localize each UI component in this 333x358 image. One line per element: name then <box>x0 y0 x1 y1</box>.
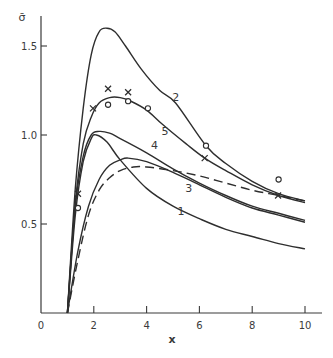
circle-marker-icon <box>203 143 208 148</box>
curves <box>67 28 305 313</box>
curve-label-5: 5 <box>162 125 169 138</box>
cross-marker-icon <box>105 86 111 92</box>
y-axis-title: σ̄ <box>19 11 26 24</box>
sigma-vs-x-chart: 0246810 0.51.01.5 x σ̄ 12345 <box>0 0 333 358</box>
x-tick-label: 6 <box>196 320 202 331</box>
curve-5 <box>67 97 305 313</box>
x-tick-label: 10 <box>299 320 312 331</box>
curve-label-4: 4 <box>151 139 158 152</box>
cross-marker-icon <box>125 89 131 95</box>
curve-4 <box>67 131 305 313</box>
circle-marker-icon <box>75 205 80 210</box>
data-markers <box>75 86 281 211</box>
y-ticks: 0.51.01.5 <box>21 41 47 230</box>
curve-label-2: 2 <box>172 91 179 104</box>
x-ticks: 0246810 <box>38 306 312 331</box>
x-tick-label: 0 <box>38 320 44 331</box>
cross-marker-icon <box>202 155 208 161</box>
circle-marker-icon <box>276 177 281 182</box>
x-axis-title: x <box>168 333 175 346</box>
curve-label-3: 3 <box>185 182 192 195</box>
curve-label-1: 1 <box>177 205 184 218</box>
x-tick-label: 4 <box>143 320 149 331</box>
curve-labels: 12345 <box>151 91 192 218</box>
x-tick-label: 2 <box>91 320 97 331</box>
y-tick-label: 0.5 <box>21 219 37 230</box>
x-tick-label: 8 <box>249 320 255 331</box>
circle-marker-icon <box>105 102 110 107</box>
curve-1 <box>67 135 305 313</box>
y-tick-label: 1.5 <box>21 41 37 52</box>
circle-marker-icon <box>145 106 150 111</box>
chart-svg: 0246810 0.51.01.5 x σ̄ 12345 <box>0 0 333 358</box>
circle-marker-icon <box>126 99 131 104</box>
curve-2 <box>67 28 305 313</box>
y-tick-label: 1.0 <box>21 130 37 141</box>
